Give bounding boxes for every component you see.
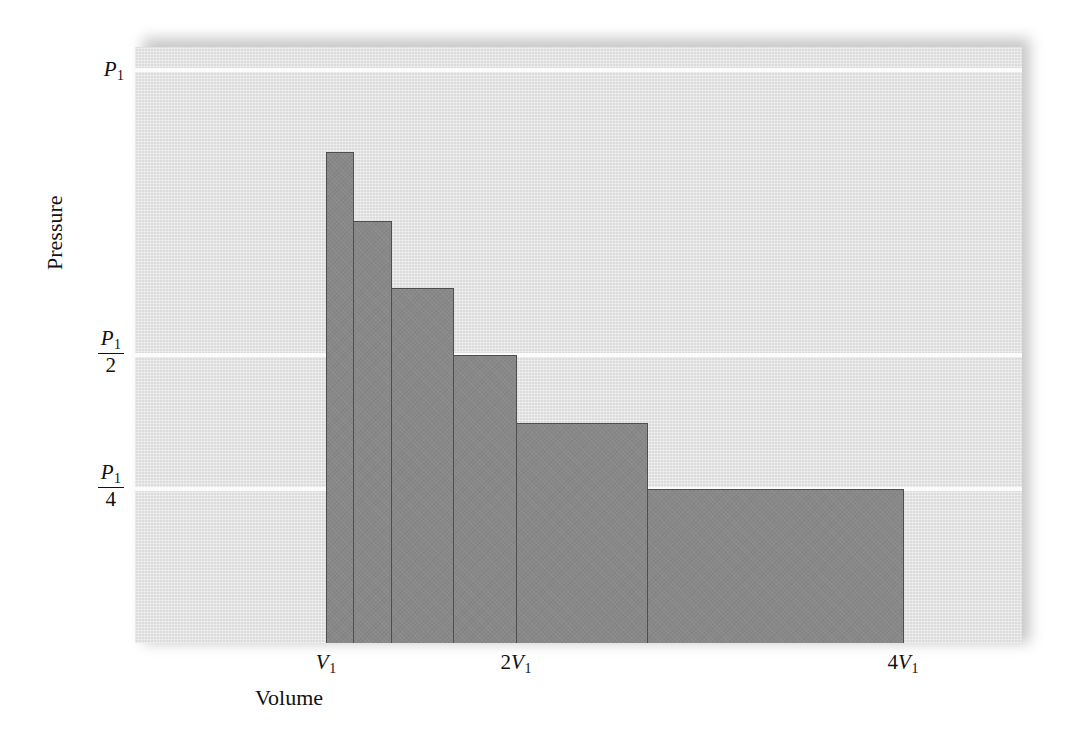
x-tick-label-2v1: 2V1 xyxy=(501,650,532,677)
bar-6 xyxy=(647,489,904,643)
y-tick-p1-symbol: P xyxy=(104,57,117,81)
gridline-p1-over-2 xyxy=(135,353,1022,357)
y-tick-label-p1: P1 xyxy=(104,57,124,84)
bar-5 xyxy=(516,423,648,643)
plot-panel xyxy=(135,47,1022,643)
bar-3 xyxy=(391,288,454,643)
x-tick-v1-symbol: V xyxy=(316,650,329,674)
x-tick-4v1-symbol: V xyxy=(898,650,911,674)
x-tick-2v1-subscript: 1 xyxy=(524,661,531,676)
y-tick-label-area: P1 P1 2 P1 4 xyxy=(0,0,124,740)
x-tick-2v1-symbol: V xyxy=(511,650,524,674)
pv-staircase-figure: P1 P1 2 P1 4 V1 2V1 4V1 Volume Pressure xyxy=(0,0,1083,740)
fraction-denominator: 4 xyxy=(98,488,124,510)
y-tick-p1-symbol-2: P xyxy=(101,326,114,350)
y-axis-title: Pressure xyxy=(42,195,68,270)
x-tick-2v1-prefix: 2 xyxy=(501,650,512,674)
bar-1 xyxy=(326,152,354,643)
y-tick-p1-subscript-2: 1 xyxy=(114,337,121,352)
fraction-numerator: P1 xyxy=(98,328,124,354)
x-axis-title-wrap: Volume xyxy=(0,685,1083,711)
fraction-p1-over-2: P1 2 xyxy=(98,328,124,376)
fraction-denominator: 2 xyxy=(98,354,124,376)
bar-2 xyxy=(353,221,392,643)
y-tick-label-p1-over-4: P1 4 xyxy=(98,462,124,510)
fraction-p1-over-4: P1 4 xyxy=(98,462,124,510)
gridline-p1 xyxy=(135,68,1022,72)
x-tick-label-v1: V1 xyxy=(316,650,336,677)
x-tick-v1-subscript: 1 xyxy=(329,661,336,676)
bar-4 xyxy=(453,355,517,643)
y-tick-p1-subscript-4: 1 xyxy=(114,471,121,486)
x-tick-label-4v1: 4V1 xyxy=(888,650,919,677)
y-tick-p1-symbol-4: P xyxy=(101,460,114,484)
x-tick-4v1-subscript: 1 xyxy=(911,661,918,676)
x-axis-title: Volume xyxy=(255,685,323,710)
x-tick-4v1-prefix: 4 xyxy=(888,650,899,674)
fraction-numerator: P1 xyxy=(98,462,124,488)
y-tick-label-p1-over-2: P1 2 xyxy=(98,328,124,376)
y-tick-p1-subscript: 1 xyxy=(117,68,124,83)
